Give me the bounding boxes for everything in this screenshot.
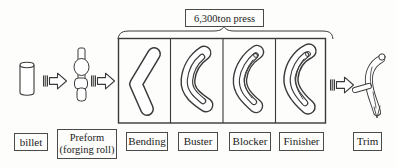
buster-die-shape bbox=[188, 53, 206, 105]
label-billet: billet bbox=[14, 133, 48, 151]
flow-arrow-icon-2 bbox=[91, 73, 115, 89]
label-finisher: Finisher bbox=[279, 132, 324, 151]
label-buster: Buster bbox=[178, 132, 218, 151]
label-preform-line2: (forging roll) bbox=[60, 144, 115, 156]
flow-arrow-icon-3 bbox=[330, 77, 354, 93]
trim-part-shape bbox=[355, 54, 385, 118]
blocker-die-shape bbox=[240, 52, 258, 106]
preform-shape bbox=[74, 48, 89, 101]
forging-process-diagram: 6,300ton press billet Preform (forging r… bbox=[0, 0, 396, 168]
label-trim: Trim bbox=[353, 132, 382, 151]
label-blocker: Blocker bbox=[229, 132, 271, 151]
label-preform-line1: Preform bbox=[70, 132, 104, 144]
label-bending: Bending bbox=[126, 132, 168, 151]
press-capacity-label: 6,300ton press bbox=[185, 9, 264, 27]
finisher-die-shape bbox=[291, 51, 311, 107]
billet-shape bbox=[20, 62, 34, 95]
bending-die-shape bbox=[136, 54, 154, 109]
press-brace bbox=[118, 27, 333, 40]
flow-arrow-icon-1 bbox=[43, 73, 67, 89]
label-preform: Preform (forging roll) bbox=[57, 129, 117, 159]
